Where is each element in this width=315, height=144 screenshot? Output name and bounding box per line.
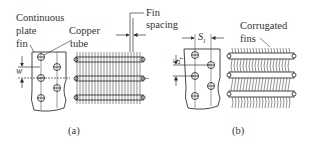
label-continuous: Continuous	[16, 12, 64, 23]
st-symbol: S	[172, 59, 182, 64]
plate-fin-leader	[30, 45, 34, 52]
label-fin-spacing-1: Fin	[146, 7, 160, 18]
caption-a: (a)	[68, 125, 80, 136]
label-st: St	[172, 58, 187, 64]
label-w: w	[16, 66, 22, 77]
tubes-side-b	[227, 53, 296, 97]
fin-spacing-dimension	[116, 13, 146, 52]
label-fin-spacing-2: spacing	[146, 19, 178, 30]
sl-subscript: l	[203, 37, 205, 45]
label-corrugated: Corrugated	[240, 20, 287, 31]
copper-tube-leader	[44, 40, 72, 55]
plate-fin-outline-b	[184, 49, 220, 109]
label-tube: tube	[70, 38, 88, 49]
label-fins: fins	[240, 33, 256, 44]
caption-b: (b)	[232, 125, 244, 136]
tube-holes-a	[38, 52, 61, 110]
st-subscript: t	[178, 58, 184, 60]
w-dimension	[18, 56, 70, 88]
label-sl: Sl	[198, 31, 205, 47]
corrugated-leader	[260, 38, 270, 47]
label-fin: fin	[16, 38, 28, 49]
label-plate: plate	[16, 25, 36, 36]
tubes-side-a	[74, 57, 145, 100]
plate-fin-outline-a	[31, 52, 66, 111]
label-copper: Copper	[69, 25, 100, 36]
